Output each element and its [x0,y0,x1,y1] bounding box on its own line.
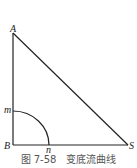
side-AS [13,33,128,145]
label-A: A [10,24,16,34]
label-B: B [4,141,10,151]
label-m: m [4,105,11,115]
arc-mn [13,111,49,145]
label-S: S [129,141,134,151]
triangle-diagram [0,0,137,168]
diagram-figure: A m B n S 图 7-58 变底流曲线 [0,0,137,168]
figure-caption: 图 7-58 变底流曲线 [0,155,137,165]
